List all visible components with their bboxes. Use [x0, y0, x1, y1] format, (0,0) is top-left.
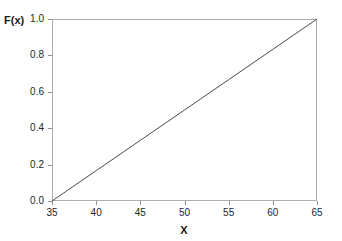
x-tick-65 — [317, 201, 318, 205]
x-axis-label-wrap: X — [0, 224, 342, 236]
y-tick-label-0.2: 0.2 — [0, 159, 44, 170]
x-tick-label-60: 60 — [258, 207, 288, 218]
y-tick-1.0 — [48, 19, 52, 20]
x-tick-label-45: 45 — [125, 207, 155, 218]
x-tick-55 — [229, 201, 230, 205]
y-tick-label-0.4: 0.4 — [0, 122, 44, 133]
x-tick-label-50: 50 — [170, 207, 200, 218]
y-tick-label-0.6: 0.6 — [0, 86, 44, 97]
x-tick-label-35: 35 — [37, 207, 67, 218]
x-tick-label-55: 55 — [214, 207, 244, 218]
y-tick-label-0.8: 0.8 — [0, 49, 44, 60]
y-tick-0.0 — [48, 201, 52, 202]
y-tick-0.8 — [48, 55, 52, 56]
x-tick-60 — [273, 201, 274, 205]
chart-container: F(x) 35404550556065 0.00.20.40.60.81.0 X — [0, 0, 342, 241]
y-tick-0.2 — [48, 165, 52, 166]
x-axis-label: X — [180, 224, 187, 236]
plot-data-layer — [52, 19, 317, 201]
x-tick-40 — [96, 201, 97, 205]
y-tick-0.6 — [48, 92, 52, 93]
y-tick-label-0.0: 0.0 — [0, 195, 44, 206]
data-line-fx — [52, 19, 317, 201]
x-tick-45 — [140, 201, 141, 205]
y-tick-label-1.0: 1.0 — [0, 13, 44, 24]
x-tick-label-40: 40 — [81, 207, 111, 218]
x-tick-label-65: 65 — [302, 207, 332, 218]
y-tick-0.4 — [48, 128, 52, 129]
x-tick-50 — [185, 201, 186, 205]
x-tick-35 — [52, 201, 53, 205]
